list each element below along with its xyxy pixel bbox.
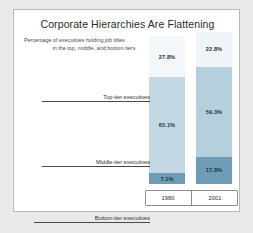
bar-2001-segment-top: 22.8% [196, 32, 232, 67]
callout-middle-tier: Middle-tier executives [42, 159, 150, 167]
plot-area: 27.8% 65.1% 7.1% 22.8% 59.3% 17.8% Top-t… [24, 36, 234, 206]
bar-1980: 27.8% 65.1% 7.1% [149, 36, 185, 184]
callout-middle-tier-label: Middle-tier executives [42, 159, 150, 166]
chart-card: Corporate Hierarchies Are Flattening Per… [13, 9, 240, 212]
x-axis: 1980 2001 [145, 190, 238, 206]
callout-bottom-tier-label: Bottom-tier executives [34, 215, 150, 222]
bar-1980-segment-top: 27.8% [149, 36, 185, 77]
axis-tick-1980: 1980 [145, 190, 191, 206]
bar-1980-segment-middle: 65.1% [149, 77, 185, 173]
bar-1980-top-value: 27.8% [159, 54, 175, 60]
bar-1980-bottom-value: 7.1% [160, 176, 173, 182]
bar-2001: 22.8% 59.3% 17.8% [196, 32, 232, 184]
callout-bottom-tier: Bottom-tier executives [34, 215, 150, 223]
bar-2001-middle-value: 59.3% [206, 109, 222, 115]
bar-2001-top-value: 22.8% [206, 46, 222, 52]
bar-1980-middle-value: 65.1% [159, 122, 175, 128]
leader-line-middle-tier [42, 166, 150, 167]
callout-top-tier: Top-tier executives [42, 94, 150, 102]
page-title: Corporate Hierarchies Are Flattening [14, 18, 241, 30]
leader-line-top-tier [42, 101, 150, 102]
bar-2001-bottom-value: 17.8% [206, 167, 222, 173]
axis-tick-2001: 2001 [192, 190, 238, 206]
bar-2001-segment-middle: 59.3% [196, 67, 232, 157]
bar-2001-segment-bottom: 17.8% [196, 157, 232, 184]
bar-1980-segment-bottom: 7.1% [149, 173, 185, 184]
callout-top-tier-label: Top-tier executives [42, 94, 150, 101]
leader-line-bottom-tier [34, 222, 150, 223]
